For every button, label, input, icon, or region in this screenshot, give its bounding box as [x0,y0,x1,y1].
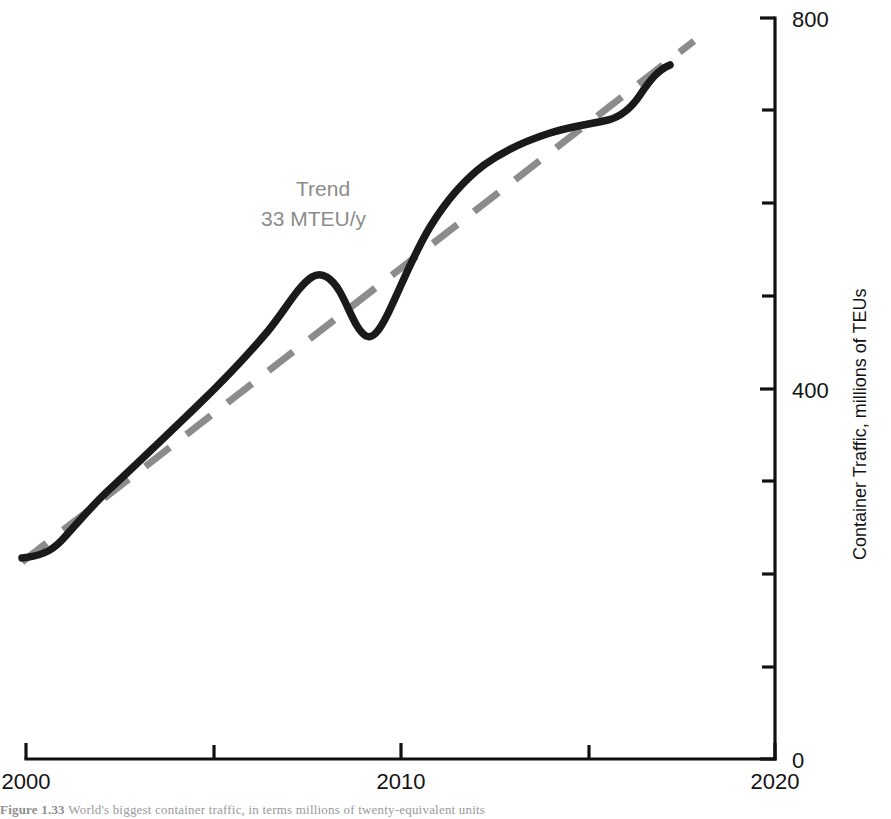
axis-spines [26,18,775,759]
x-axis-ticks [26,743,775,759]
figure-caption-text: World's biggest container traffic, in te… [68,802,485,817]
figure-caption-number: Figure 1.33 [0,802,68,817]
trend-annotation-rate: 33 MTEU/y [261,207,367,230]
trend-annotation-title: Trend [296,177,350,200]
y-tick-label-400: 400 [792,378,829,403]
figure-caption: Figure 1.33 World's biggest container tr… [0,802,891,818]
y-axis-title: Container Traffic, millions of TEUs [850,289,870,560]
x-tick-label-2010: 2010 [377,769,426,794]
y-tick-label-800: 800 [792,7,829,32]
figure-container: 800 400 0 2000 2010 2020 Container Traff… [0,0,891,819]
x-tick-label-2000: 2000 [2,769,51,794]
trend-line-series [22,41,694,562]
y-axis-ticks [760,18,775,759]
trend-annotation: Trend 33 MTEU/y [261,177,367,230]
x-tick-label-2020: 2020 [751,769,800,794]
container-traffic-line-chart: 800 400 0 2000 2010 2020 Container Traff… [0,0,891,819]
